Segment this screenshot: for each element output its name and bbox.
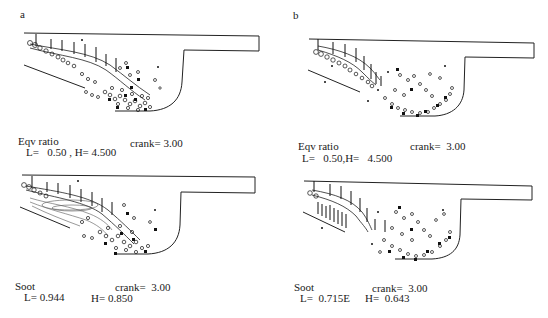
panel-a-letter: a: [20, 8, 25, 20]
droplet-cloud: [22, 180, 157, 255]
spray-ticks: [314, 181, 385, 232]
panel-d-high-label: H= 0.643: [365, 292, 409, 304]
panel-b-range-label: L= 0.50,H= 4.500: [302, 152, 392, 164]
panel-d-chamber: [303, 181, 532, 261]
bowl-wall-line: [20, 207, 70, 228]
panel-a-chamber: [24, 33, 259, 112]
panel-b-letter: b: [293, 9, 299, 21]
droplet-cloud: [308, 191, 452, 261]
panel-a-range-label: L= 0.50 , H= 4.500: [26, 146, 116, 158]
panel-d-low-label: L= 0.715E: [300, 292, 350, 304]
chamber-outline: [22, 175, 255, 254]
panel-c-low-label: L= 0.944: [24, 291, 64, 303]
chamber-outline: [24, 33, 259, 111]
figure-drawing: [0, 0, 548, 318]
panel-b-chamber: [308, 39, 534, 117]
panel-b-crank-label: crank= 3.00: [410, 140, 465, 152]
droplet-cloud: [314, 50, 454, 117]
panel-b-quantity-label: Eqv ratio: [298, 140, 339, 152]
bowl-wall-line: [308, 70, 360, 92]
panel-a-crank-label: crank= 3.00: [130, 137, 183, 149]
spray-plume-lower: [26, 190, 134, 244]
bowl-wall-line: [303, 212, 345, 232]
panel-c-high-label: H= 0.850: [91, 292, 133, 304]
chamber-outline: [309, 39, 534, 116]
droplet-cloud: [28, 39, 162, 112]
panel-c-chamber: [20, 175, 255, 255]
spray-plume-lower: [318, 50, 376, 85]
bowl-wall-line: [24, 65, 85, 88]
